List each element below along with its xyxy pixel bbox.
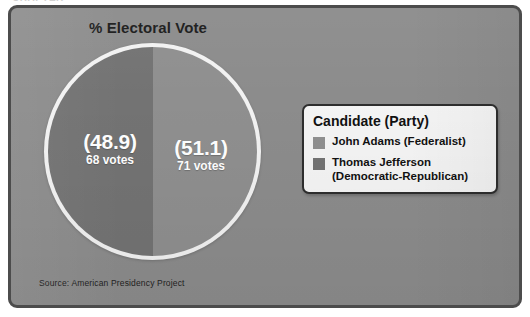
pie-label-jefferson-percent: (48.9) [64, 131, 156, 153]
pie-label-adams-votes: 71 votes [158, 160, 244, 173]
pie-label-jefferson: (48.9) 68 votes [64, 131, 156, 167]
legend-item-jefferson[interactable]: Thomas Jefferson (Democratic-Republican) [313, 156, 487, 183]
legend-swatch-adams [313, 137, 325, 149]
legend: Candidate (Party) John Adams (Federalist… [302, 104, 498, 194]
legend-label-adams: John Adams (Federalist) [332, 135, 466, 149]
pie-label-jefferson-votes: 68 votes [64, 154, 156, 167]
chart-title: % Electoral Vote [89, 19, 207, 36]
pie-label-adams-percent: (51.1) [158, 137, 244, 159]
pie-label-adams: (51.1) 71 votes [158, 137, 244, 173]
page-header-text: CHAPTER [12, 0, 64, 3]
legend-label-jefferson: Thomas Jefferson (Democratic-Republican) [332, 156, 487, 183]
source-note: Source: American Presidency Project [39, 278, 185, 288]
legend-item-adams[interactable]: John Adams (Federalist) [313, 135, 487, 149]
legend-swatch-jefferson [313, 158, 325, 170]
legend-title: Candidate (Party) [313, 113, 487, 129]
figure-frame: % Electoral Vote (48.9) 68 votes (51.1) … [8, 5, 522, 308]
pie-chart: (48.9) 68 votes (51.1) 71 votes [44, 43, 261, 260]
